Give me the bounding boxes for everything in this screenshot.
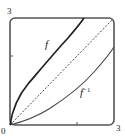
y-max-label: 3 xyxy=(7,6,12,16)
inverse-function-plot: 3 0 3 f f−1 xyxy=(0,0,125,137)
f-inverse-label: f−1 xyxy=(80,86,91,98)
f-inverse-superscript: −1 xyxy=(83,86,91,94)
x-max-label: 3 xyxy=(116,123,121,133)
curve-f xyxy=(10,18,84,125)
f-label: f xyxy=(45,38,50,50)
origin-label: 0 xyxy=(1,126,6,136)
identity-line xyxy=(10,20,112,125)
